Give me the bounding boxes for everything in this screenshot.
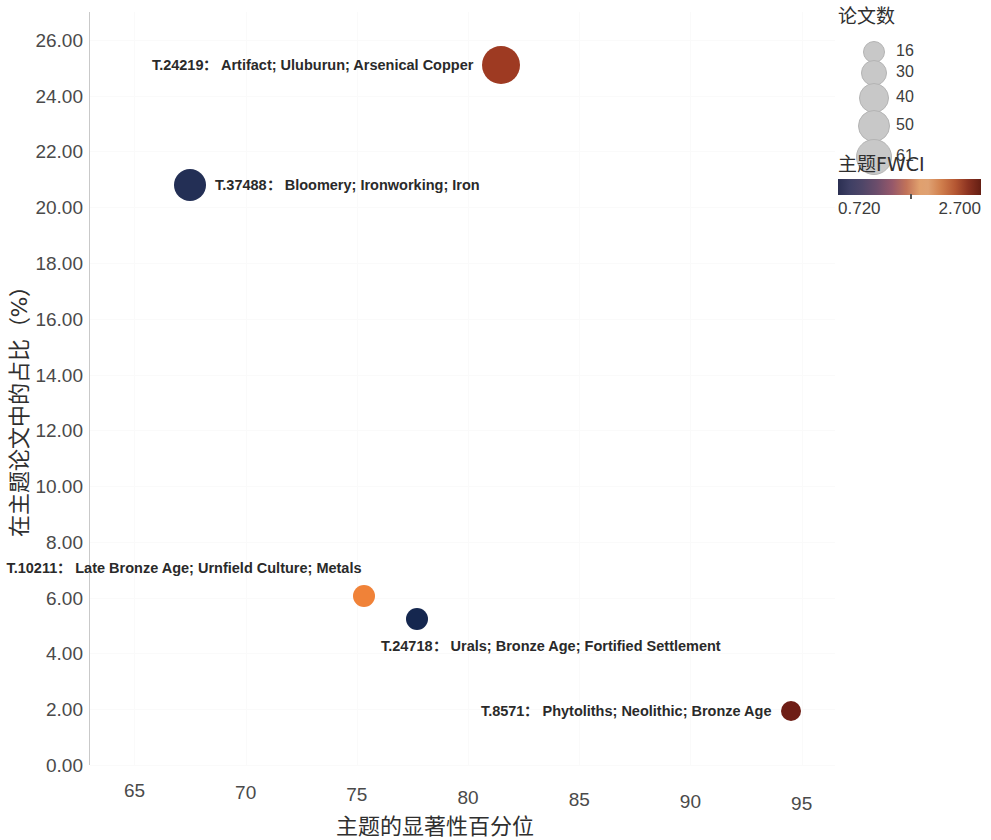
y-axis-tick-label: 22.00 [35,142,83,161]
scatter-bubble[interactable] [781,701,801,721]
colorbar-min-label: 0.720 [838,199,881,219]
size-legend-bubble [859,83,889,113]
x-axis-title: 主题的显著性百分位 [0,808,870,840]
scatter-bubble[interactable] [174,169,206,201]
x-axis-tick-label: 80 [457,788,478,807]
y-axis-tick-label: 0.00 [46,756,83,775]
color-legend: 主题FWCI 0.720 2.700 [838,154,986,221]
y-axis-tick-label: 12.00 [35,421,83,440]
gridline-horizontal [90,598,835,599]
x-axis-tick-label: 85 [569,790,590,809]
y-axis-tick-label: 10.00 [35,477,83,496]
size-legend-label: 40 [896,89,914,105]
gridline-horizontal [90,207,835,208]
scatter-point-label: T.37488： Bloomery; Ironworking; Iron [215,178,480,193]
gridline-horizontal [90,653,835,654]
y-axis-tick-label: 8.00 [46,533,83,552]
y-axis-tick-label: 20.00 [35,198,83,217]
gridline-horizontal [90,319,835,320]
y-axis-tick-label: 24.00 [35,87,83,106]
y-axis-title: 在主题论文中的占比（%） [1,191,33,621]
y-axis-tick-label: 14.00 [35,366,83,385]
gridline-horizontal [90,96,835,97]
color-legend-title: 主题FWCI [838,154,986,175]
gridline-horizontal [90,430,835,431]
size-legend-label: 16 [896,43,914,59]
size-legend-label: 50 [896,117,914,133]
gridline-vertical [134,12,135,765]
y-axis-tick-label: 4.00 [46,644,83,663]
x-axis-tick-label: 75 [346,785,367,804]
y-axis-tick-label: 18.00 [35,254,83,273]
scatter-point-label: T.24219： Artifact; Uluburun; Arsenical C… [152,58,474,73]
scatter-point-label: T.8571： Phytoliths; Neolithic; Bronze Ag… [481,703,772,718]
gridline-horizontal [90,263,835,264]
y-axis-tick-label: 6.00 [46,589,83,608]
colorbar [838,179,981,195]
gridline-horizontal [90,486,835,487]
gridline-horizontal [90,542,835,543]
colorbar-limits: 0.720 2.700 [838,199,981,221]
gridline-vertical [357,12,358,765]
gridline-horizontal [90,375,835,376]
plot-area: T.24219： Artifact; Uluburun; Arsenical C… [90,12,835,765]
x-axis-tick-label: 70 [235,783,256,802]
scatter-bubble[interactable] [353,585,375,607]
gridline-horizontal [90,40,835,41]
y-axis-tick-label: 2.00 [46,700,83,719]
scatter-point-label: T.10211： Late Bronze Age; Urnfield Cultu… [6,561,361,576]
y-axis-tick-label: 16.00 [35,310,83,329]
colorbar-max-label: 2.700 [938,199,981,219]
size-legend-label: 30 [896,64,914,80]
scatter-bubble[interactable] [482,46,520,84]
size-legend: 1630405061 [838,29,988,147]
legend: 论文数 1630405061 主题FWCI 0.720 2.700 [838,6,988,147]
gridline-horizontal [90,765,835,766]
size-legend-bubble [858,110,890,142]
size-legend-title: 论文数 [838,6,988,27]
scatter-point-label: T.24718： Urals; Bronze Age; Fortified Se… [381,638,721,653]
gridline-vertical [246,12,247,765]
x-axis-tick-labels: 65707580859095 [0,778,991,804]
y-axis-tick-label: 26.00 [35,31,83,50]
gridline-horizontal [90,151,835,152]
gridline-vertical [802,12,803,765]
x-axis-tick-label: 65 [124,781,145,800]
scatter-bubble[interactable] [406,608,428,630]
